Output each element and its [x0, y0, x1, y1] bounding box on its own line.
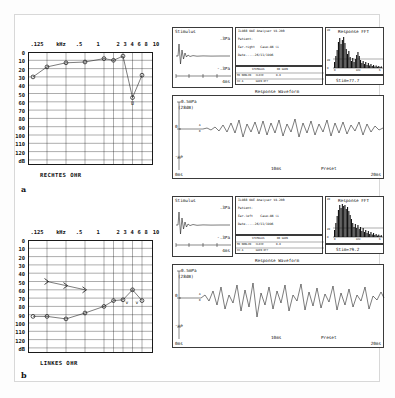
svg-text:v: v: [136, 300, 139, 305]
response-waveform-box-left: 0.5mPa (28dB) 0 -ve 0ms 10ms Preset 20ms…: [172, 264, 384, 348]
audiogram-right: .125 kHz .5 1 2 3 4 6 8 10 0 10 20 30 40…: [28, 52, 153, 172]
freq-axis-unit: kHz: [56, 41, 66, 47]
settings-table-rules: [236, 236, 324, 255]
response-waveform-left-plot: [173, 265, 385, 349]
freq-tick-8: 8: [144, 229, 147, 235]
db-tick-60: 60: [11, 100, 25, 106]
response-fft-box-left: Response FFT 20 20 0 0 kHz 6: [325, 196, 384, 244]
db-tick-110: 110: [11, 141, 25, 147]
settings-table-rules: [236, 67, 324, 86]
freq-tick-0125: .125: [31, 229, 44, 235]
response-waveform-right-plot: [173, 96, 385, 180]
svg-text:v: v: [126, 300, 129, 305]
audiogram-left-caption: LINKES OHR: [40, 360, 78, 366]
response-fft-right-plot: [326, 28, 385, 76]
db-tick-80: 80: [11, 304, 25, 310]
freq-tick-1: 1: [96, 229, 99, 235]
freq-tick-3: 3: [123, 229, 126, 235]
db-tick-50: 50: [11, 280, 25, 286]
ilo-header-box-right: ILO88 OAE Analyser V4.20B Patient: Ear.r…: [235, 27, 323, 66]
stim-level-value: Stim=79.2: [336, 247, 359, 252]
db-tick-100: 100: [11, 321, 25, 327]
response-waveform-box-right: 0.5mPa (28dB) 0 -ve 0ms 10ms Preset 20ms…: [172, 95, 384, 179]
ilo-panel-left-ear: Stimulus .3Pa -.3Pa 4ms ILO88 OAE Analys…: [172, 196, 384, 348]
stim-level-box-left: Stim=79.2: [325, 244, 384, 254]
db-axis-unit: dB: [11, 346, 25, 352]
freq-tick-05: .5: [76, 41, 83, 47]
svg-text:U: U: [131, 100, 134, 106]
freq-tick-8: 8: [144, 41, 147, 47]
db-tick-90: 90: [11, 313, 25, 319]
db-tick-40: 40: [11, 83, 25, 89]
ilo-settings-table-left: STIMULUS DB GAIN MX NONLIN CLICK 0.0 CH …: [235, 235, 323, 254]
audiogram-left: .125 kHz .5 1 2 3 4 6 8 10 0 10 20 30 40…: [28, 240, 153, 360]
ilo-settings-table-right: STIMULUS DB GAIN MX NONLIN CLICK 0.0 CH …: [235, 66, 323, 85]
freq-tick-6: 6: [137, 229, 140, 235]
db-tick-120: 120: [11, 338, 25, 344]
freq-tick-0125: .125: [31, 41, 44, 47]
stim-level-value: Stim=77.7: [336, 78, 359, 83]
db-tick-20: 20: [11, 67, 25, 73]
ilo-patient-line: Patient:: [238, 207, 253, 211]
stimulus-box-right: Stimulus .3Pa -.3Pa 4ms: [172, 27, 233, 88]
ilo-ear-case-line: Ear.left Case:AN li: [238, 215, 279, 219]
db-tick-60: 60: [11, 288, 25, 294]
freq-tick-4: 4: [130, 229, 133, 235]
audiogram-right-caption: RECHTES OHR: [40, 172, 81, 178]
db-tick-10: 10: [11, 58, 25, 64]
freq-tick-05: .5: [76, 229, 83, 235]
response-fft-left-plot: [326, 197, 385, 245]
freq-tick-10: 10: [153, 229, 160, 235]
audiogram-left-plot: v v: [28, 240, 153, 353]
db-tick-100: 100: [11, 133, 25, 139]
db-tick-80: 80: [11, 116, 25, 122]
db-tick-30: 30: [11, 263, 25, 269]
response-waveform-title-right: Response Waveform: [255, 89, 299, 94]
ilo-header-title: ILO88 OAE Analyser V4.20B: [238, 199, 285, 203]
db-tick-10: 10: [11, 246, 25, 252]
ilo-header-title: ILO88 OAE Analyser V4.20B: [238, 30, 285, 34]
db-tick-120: 120: [11, 150, 25, 156]
db-axis-unit: dB: [11, 158, 25, 164]
figure-page: .125 kHz .5 1 2 3 4 6 8 10 0 10 20 30 40…: [0, 0, 395, 398]
db-tick-70: 70: [11, 296, 25, 302]
db-tick-70: 70: [11, 108, 25, 114]
freq-tick-6: 6: [137, 41, 140, 47]
stimulus-waveform-left-plot: [173, 197, 234, 258]
freq-tick-3: 3: [123, 41, 126, 47]
ilo-date-line: Date.....26/11/1996: [238, 223, 273, 227]
freq-tick-4: 4: [130, 41, 133, 47]
freq-tick-2: 2: [116, 41, 119, 47]
subfigure-label-b: b: [21, 370, 27, 380]
stim-level-box-right: Stim=77.7: [325, 75, 384, 85]
db-tick-40: 40: [11, 271, 25, 277]
response-fft-box-right: Response FFT 20 20 0 0 kHz 6: [325, 27, 384, 75]
freq-axis-unit: kHz: [56, 229, 66, 235]
ilo-panel-right-ear: Stimulus .3Pa -.3Pa 4ms ILO88 OAE Analys…: [172, 27, 384, 179]
db-tick-0: 0: [11, 238, 25, 244]
freq-tick-10: 10: [153, 41, 160, 47]
ilo-date-line: Date.....26/11/1996: [238, 54, 273, 58]
ilo-ear-case-line: Ear.right Case:AN li: [238, 46, 279, 50]
db-tick-90: 90: [11, 125, 25, 131]
db-tick-50: 50: [11, 92, 25, 98]
freq-tick-1: 1: [96, 41, 99, 47]
db-tick-110: 110: [11, 329, 25, 335]
db-tick-30: 30: [11, 75, 25, 81]
db-tick-20: 20: [11, 255, 25, 261]
response-waveform-title-left: Response Waveform: [255, 258, 299, 263]
stimulus-box-left: Stimulus .3Pa -.3Pa 4ms: [172, 196, 233, 257]
audiogram-right-plot: U: [28, 52, 153, 165]
freq-tick-2: 2: [116, 229, 119, 235]
ilo-patient-line: Patient:: [238, 38, 253, 42]
subfigure-label-a: a: [21, 184, 26, 194]
stimulus-waveform-right-plot: [173, 28, 234, 89]
ilo-header-box-left: ILO88 OAE Analyser V4.20B Patient: Ear.l…: [235, 196, 323, 235]
db-tick-0: 0: [11, 50, 25, 56]
